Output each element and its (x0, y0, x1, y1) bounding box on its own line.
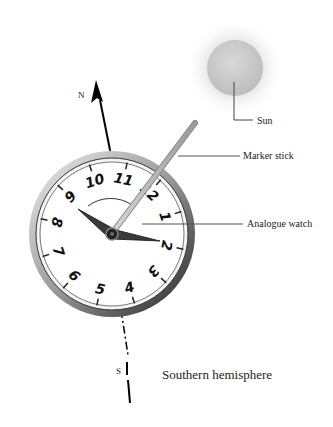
diagram-title: Southern hemisphere (162, 367, 272, 382)
sun-watch-compass-diagram: Sun N S 121234567891011 Marker stick Ana… (0, 0, 333, 427)
south-label: S (116, 366, 121, 376)
sun (185, 18, 285, 118)
analogue-watch-label: Analogue watch (247, 218, 312, 229)
sun-label: Sun (257, 115, 273, 126)
north-arrow-icon (91, 80, 103, 103)
marker-stick-label: Marker stick (243, 150, 294, 161)
north-label: N (78, 90, 85, 100)
